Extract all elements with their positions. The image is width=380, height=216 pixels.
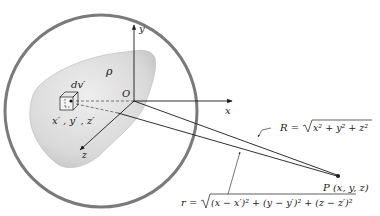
volume-element-label: dv′ (71, 79, 86, 90)
field-point-label: P (x, y, z) (322, 182, 369, 193)
source-coords-label: x′ , y′ , z′ (52, 115, 95, 126)
charge-body (30, 50, 156, 167)
r-equation-radicand: (x − x′)² + (y − y′)² + (z − z′)² (211, 197, 353, 208)
R-vector-line (134, 101, 337, 175)
r-vector-line (118, 113, 337, 176)
R-label-leader (258, 128, 271, 137)
diagram-canvas: ρ dv′ x′ , y′ , z′ O x y z P (x, y, z) R… (0, 0, 380, 216)
r-label-leader (228, 152, 240, 194)
r-equation: r = (x − x′)² + (y − y′)² + (z − z′)² (181, 194, 356, 208)
R-equation-radicand: x² + y² + z² (313, 122, 368, 133)
x-axis-label: x (225, 105, 231, 116)
R-equation-lhs: R = (279, 122, 299, 133)
origin-label: O (122, 88, 130, 99)
density-label: ρ (105, 65, 113, 78)
z-axis-label: z (81, 150, 87, 160)
r-equation-lhs: r = (181, 197, 197, 208)
y-axis-label: y (138, 23, 145, 34)
source-point (69, 99, 72, 102)
field-point-P (336, 174, 340, 178)
R-equation: R = x² + y² + z² (279, 120, 372, 133)
